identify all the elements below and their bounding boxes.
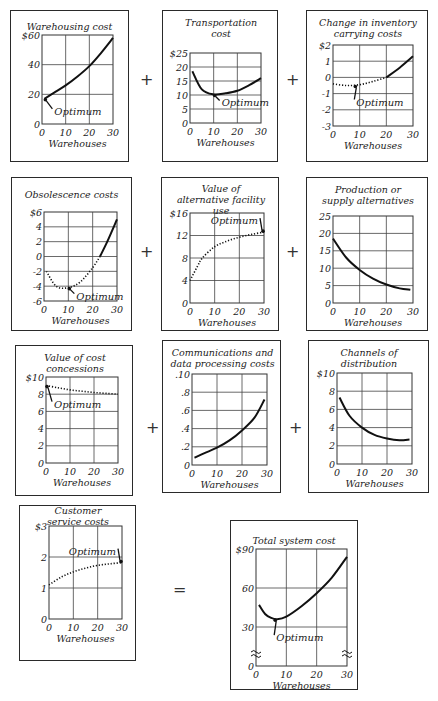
x-axis-label: Warehouses [344,140,402,151]
optimum-annotation: Optimum [211,215,265,233]
y-tick-label: 5 [182,104,188,115]
chart-inventory-carrying-costs: Change in inventory carrying costs -3-2-… [306,10,428,162]
arrow-icon [216,96,220,100]
series-line [192,71,261,94]
x-tick-label: 20 [380,467,393,478]
grid: 02468$100102030Warehouses [317,368,418,490]
y-tick-label: 60 [242,583,254,594]
y-tick-label: .10 [175,369,190,380]
x-tick-label: 0 [330,306,336,317]
x-tick-label: 10 [62,304,74,315]
optimum-label: Optimum [211,215,258,226]
chart-plot: 0.2.4.6.8.100102030Warehouses [163,341,282,494]
x-tick-label: 10 [211,468,223,479]
chart-customer-service-costs: Customer service costs 012$30102030Wareh… [19,505,136,661]
x-axis-label: Warehouses [196,137,254,148]
plus-operator: + [286,70,299,89]
y-tick-label: 30 [242,622,254,633]
y-tick-label: $16 [170,208,188,219]
optimum-label: Optimum [76,291,123,302]
arrow-icon [118,549,120,561]
series-line [49,563,122,585]
plus-operator: + [140,70,153,89]
x-tick-label: 10 [356,467,368,478]
chart-plot: 012$30102030WarehousesOptimum [20,506,137,662]
y-tick-label: $90 [236,544,254,555]
y-tick-label: .6 [181,405,190,416]
x-tick-label: 10 [354,306,366,317]
optimum-annotation: Optimum [45,385,101,410]
x-tick-label: 10 [208,126,220,137]
optimum-label: Optimum [222,97,269,108]
y-tick-label: 8 [38,389,44,400]
y-tick-label: 2 [40,552,47,563]
x-tick-label: 0 [46,622,52,633]
x-tick-label: 20 [230,126,243,137]
x-tick-label: 0 [334,467,340,478]
x-tick-label: 30 [255,126,267,137]
y-tick-label: -2 [322,104,331,115]
chart-plot: 05101520250102030Warehouses [307,178,429,332]
arrow-icon [48,388,52,402]
x-tick-label: 30 [341,669,353,680]
x-tick-label: 30 [406,467,418,478]
optimum-label: Optimum [276,632,323,643]
x-tick-label: 30 [111,304,123,315]
y-tick-label: 2 [35,236,42,247]
x-tick-label: 10 [280,669,292,680]
x-tick-label: 10 [354,129,366,140]
chart-plot: -3-2-101$20102030WarehousesOptimum [307,11,429,163]
y-tick-label: 4 [328,422,335,433]
plus-operator: + [140,242,153,261]
x-axis-label: Warehouses [53,477,111,488]
x-tick-label: 20 [379,306,392,317]
chart-warehousing-cost: Warehousing cost 02040$600102030Warehous… [10,10,129,162]
x-tick-label: 20 [87,466,100,477]
y-tick-label: 15 [176,76,188,87]
x-tick-label: 10 [209,306,221,317]
y-tick-label: $10 [26,372,44,383]
y-tick-label: 10 [319,263,331,274]
x-tick-label: 0 [41,304,47,315]
x-tick-label: 0 [39,127,45,138]
x-tick-label: 0 [189,468,195,479]
chart-plot: 02468$100102030WarehousesOptimum [16,346,134,497]
y-tick-label: .2 [181,441,190,452]
arrow-icon [70,290,74,294]
x-tick-label: 0 [187,126,193,137]
plus-operator: + [289,418,302,437]
x-axis-label: Warehouses [272,680,330,691]
y-tick-label: -2 [33,266,42,277]
y-tick-label: $60 [22,30,40,41]
x-tick-label: 10 [64,466,76,477]
plus-operator: + [286,242,299,261]
arrow-icon [260,218,262,230]
optimum-annotation: Optimum [213,94,269,109]
x-tick-label: 20 [91,622,104,633]
x-axis-label: Warehouses [200,479,258,490]
series-line [190,232,264,280]
y-tick-label: 8 [329,386,335,397]
optimum-label: Optimum [54,106,101,117]
y-tick-label: $10 [317,368,335,379]
equals-operator: = [173,580,186,599]
x-tick-label: 30 [407,306,419,317]
chart-plot: 04812$160102030WarehousesOptimum [162,178,280,332]
series-line [46,257,100,289]
x-tick-label: 30 [112,466,124,477]
x-axis-label: Warehouses [48,138,106,149]
x-tick-label: 10 [67,622,79,633]
y-tick-label: $25 [170,48,188,59]
x-tick-label: 30 [116,622,128,633]
x-axis-label: Warehouses [51,315,109,326]
y-tick-label: 0 [36,251,42,262]
optimum-annotation: Optimum [44,98,102,117]
optimum-annotation: Optimum [68,287,124,302]
x-tick-label: 20 [310,669,323,680]
chart-plot: 03060$900102030WarehousesOptimum [231,521,359,691]
chart-plot: 02040$600102030WarehousesOptimum [11,11,130,163]
y-tick-label: 1 [41,583,47,594]
series-line [46,386,118,395]
y-tick-label: -4 [33,281,42,292]
x-tick-label: 0 [43,466,49,477]
